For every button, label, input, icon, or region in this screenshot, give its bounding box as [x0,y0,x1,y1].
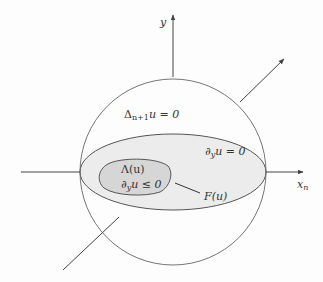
contact-set-label: Λ(u) [120,163,145,176]
diagonal-axis-arrow [240,59,284,102]
xn-axis-label: xn [297,178,308,192]
ball-equation-label: Δn+1u = 0 [124,108,179,122]
y-axis-label: y [159,16,167,29]
diagonal-axis-lower [63,217,119,270]
diagram-canvas: y xn Δn+1u = 0 ∂yu = 0 Λ(u) ∂yu ≤ 0 F(u) [0,0,323,282]
free-boundary-label: F(u) [203,190,227,203]
